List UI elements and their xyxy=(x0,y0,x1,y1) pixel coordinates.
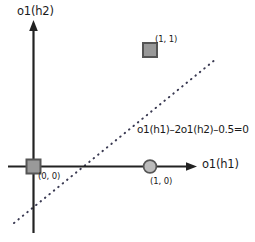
plot-svg xyxy=(0,0,255,242)
figure-canvas: o1(h2) o1(h1) (0, 0) (1, 0) (1, 1) o1(h1… xyxy=(0,0,255,242)
point-label-one-one: (1, 1) xyxy=(155,35,177,44)
point-label-origin: (0, 0) xyxy=(38,172,60,181)
y-axis-label: o1(h2) xyxy=(17,6,54,18)
x-axis-arrowhead xyxy=(186,162,197,171)
x-axis-label: o1(h1) xyxy=(202,159,239,171)
point-marker-one-one xyxy=(143,43,157,57)
y-axis-arrowhead xyxy=(29,20,38,31)
point-marker-one-zero xyxy=(144,160,157,173)
point-label-one-zero: (1, 0) xyxy=(150,177,172,186)
decision-boundary-line xyxy=(14,59,216,223)
decision-boundary-equation-label: o1(h1)–2o1(h2)–0.5=0 xyxy=(137,124,249,135)
